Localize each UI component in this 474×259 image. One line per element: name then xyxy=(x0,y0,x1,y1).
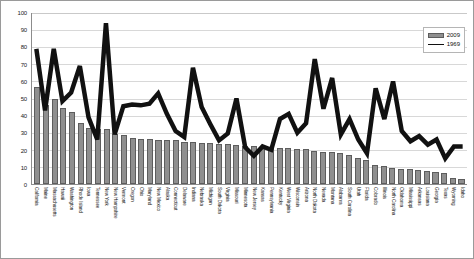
x-axis-tick-label: Connecticut xyxy=(173,187,178,210)
x-axis-label-slot: South Dakota xyxy=(214,185,223,258)
x-axis-label-slot: Vermont xyxy=(119,185,128,258)
legend-swatch-line xyxy=(428,44,444,45)
legend-label-2009: 2009 xyxy=(447,32,460,38)
x-axis-label-slot: New Mexico xyxy=(154,185,163,258)
x-axis-tick-label: Nebraska xyxy=(199,187,204,206)
x-axis-label-slot: New Jersey xyxy=(249,185,258,258)
x-axis-tick-label: South Carolina xyxy=(347,187,352,216)
x-axis-label-slot: Pennsylvania xyxy=(267,185,276,258)
x-axis-tick-label: Missouri xyxy=(234,187,239,203)
x-axis-tick-label: Florida xyxy=(364,187,369,200)
x-axis-tick-label: California xyxy=(34,187,39,205)
x-axis-tick-label: Wyoming xyxy=(451,187,456,205)
y-axis-tick-label: 60 xyxy=(21,79,27,85)
x-axis-tick-label: Utah xyxy=(355,187,360,196)
x-axis-tick-label: Michigan xyxy=(208,187,213,205)
x-axis-label-slot: Maryland xyxy=(145,185,154,258)
x-axis-label-slot: California xyxy=(32,185,41,258)
legend-item-1969: 1969 xyxy=(428,40,460,48)
x-axis-tick-label: New Hampshire xyxy=(112,187,117,218)
x-axis-tick-label: Colorado xyxy=(373,187,378,205)
x-axis-label-slot: Arizona xyxy=(301,185,310,258)
x-axis-label-slot: Arkansas xyxy=(414,185,423,258)
x-axis-label-slot: Mississippi xyxy=(406,185,415,258)
x-axis-tick-label: Texas xyxy=(442,187,447,199)
x-axis-labels: CaliforniaMaineMassachusettsHawaiiWashin… xyxy=(31,185,467,258)
x-axis-tick-label: Iowa xyxy=(86,187,91,196)
legend-item-2009: 2009 xyxy=(428,31,460,39)
x-axis-label-slot: Minnesota xyxy=(241,185,250,258)
x-axis-label-slot: New Hampshire xyxy=(110,185,119,258)
x-axis-tick-label: North Carolina xyxy=(390,187,395,215)
x-axis-label-slot: Washington xyxy=(67,185,76,258)
x-axis-tick-label: New Jersey xyxy=(251,187,256,210)
y-axis-tick-label: 100 xyxy=(18,10,27,16)
x-axis-label-slot: Alaska xyxy=(162,185,171,258)
y-axis-tick-label: 40 xyxy=(21,113,27,119)
y-axis-tick-label: 10 xyxy=(21,165,27,171)
x-axis-tick-label: Kansas xyxy=(260,187,265,202)
x-axis-tick-label: New Mexico xyxy=(155,187,160,211)
x-axis-label-slot: Florida xyxy=(362,185,371,258)
x-axis-tick-label: Arizona xyxy=(303,187,308,202)
x-axis-label-slot: Nebraska xyxy=(197,185,206,258)
x-axis-label-slot: Idaho xyxy=(458,185,467,258)
x-axis-label-slot: Michigan xyxy=(206,185,215,258)
x-axis-label-slot: Georgia xyxy=(432,185,441,258)
x-axis-tick-label: Wisconsin xyxy=(294,187,299,207)
x-axis-tick-label: New York xyxy=(103,187,108,206)
x-axis-tick-label: South Dakota xyxy=(216,187,221,214)
x-axis-label-slot: Oregon xyxy=(128,185,137,258)
x-axis-tick-label: Arkansas xyxy=(416,187,421,205)
x-axis-tick-label: Oklahoma xyxy=(399,187,404,207)
y-axis-tick-label: 30 xyxy=(21,130,27,136)
x-axis-tick-label: Idaho xyxy=(460,187,465,198)
x-axis-label-slot: Kansas xyxy=(258,185,267,258)
x-axis-label-slot: Massachusetts xyxy=(49,185,58,258)
x-axis-label-slot: West Virginia xyxy=(284,185,293,258)
x-axis-tick-label: Tennessee xyxy=(95,187,100,208)
x-axis-label-slot: Maine xyxy=(41,185,50,258)
x-axis-tick-label: Virginia xyxy=(225,187,230,201)
x-axis-tick-label: Pennsylvania xyxy=(268,187,273,213)
x-axis-tick-label: Illinois xyxy=(381,187,386,199)
x-axis-label-slot: Nevada xyxy=(319,185,328,258)
x-axis-tick-label: Mississippi xyxy=(407,187,412,208)
chart-container: 0102030405060708090100 CaliforniaMaineMa… xyxy=(0,0,474,259)
x-axis-tick-label: West Virginia xyxy=(286,187,291,213)
legend-label-1969: 1969 xyxy=(447,41,460,47)
x-axis-tick-label: Rhode Island xyxy=(77,187,82,213)
y-axis-tick-label: 0 xyxy=(24,182,27,188)
x-axis-label-slot: Iowa xyxy=(84,185,93,258)
x-axis-label-slot: Utah xyxy=(353,185,362,258)
x-axis-label-slot: North Carolina xyxy=(388,185,397,258)
x-axis-label-slot: South Carolina xyxy=(345,185,354,258)
plot-area xyxy=(31,13,467,185)
chart-legend: 2009 1969 xyxy=(423,27,465,53)
y-axis-tick-label: 90 xyxy=(21,27,27,33)
x-axis-tick-label: Minnesota xyxy=(242,187,247,207)
x-axis-label-slot: Alabama xyxy=(336,185,345,258)
x-axis-label-slot: North Dakota xyxy=(310,185,319,258)
x-axis-label-slot: Rhode Island xyxy=(75,185,84,258)
x-axis-tick-label: Hawaii xyxy=(60,187,65,200)
y-axis-tick-label: 70 xyxy=(21,62,27,68)
x-axis-label-slot: Texas xyxy=(440,185,449,258)
x-axis-label-slot: Wyoming xyxy=(449,185,458,258)
x-axis-label-slot: Hawaii xyxy=(58,185,67,258)
x-axis-label-slot: Delaware xyxy=(180,185,189,258)
x-axis-tick-label: Alaska xyxy=(164,187,169,200)
x-axis-tick-label: Montana xyxy=(329,187,334,204)
y-axis-tick-label: 20 xyxy=(21,148,27,154)
x-axis-tick-label: Louisiana xyxy=(425,187,430,206)
x-axis-label-slot: Connecticut xyxy=(171,185,180,258)
x-axis-label-slot: Colorado xyxy=(371,185,380,258)
x-axis-label-slot: Missouri xyxy=(232,185,241,258)
x-axis-label-slot: Tennessee xyxy=(93,185,102,258)
x-axis-tick-label: Massachusetts xyxy=(51,187,56,216)
x-axis-label-slot: Kentucky xyxy=(275,185,284,258)
x-axis-tick-label: Oregon xyxy=(129,187,134,202)
x-axis-tick-label: Indiana xyxy=(190,187,195,201)
y-axis: 0102030405060708090100 xyxy=(1,13,31,185)
x-axis-tick-label: Washington xyxy=(69,187,74,210)
